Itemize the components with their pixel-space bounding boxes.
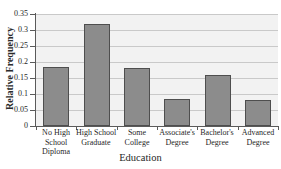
- category-label-line: College: [117, 138, 157, 148]
- gridline: [36, 14, 278, 15]
- category-label-line: Bachelor's: [197, 128, 237, 138]
- bar: [205, 75, 231, 126]
- bar: [43, 67, 69, 126]
- category-label-line: High School: [76, 128, 116, 138]
- bar-chart: Educational Attainment of Americans Rela…: [0, 0, 281, 169]
- gridline: [36, 62, 278, 63]
- bar: [164, 99, 190, 126]
- y-tick-label: 0.1: [0, 90, 30, 98]
- bar: [124, 68, 150, 126]
- y-tick-label: 0: [0, 122, 30, 130]
- gridline: [36, 78, 278, 79]
- y-tick-label: 0.3: [0, 26, 30, 34]
- x-tick-mark: [278, 126, 279, 130]
- y-tick-label: 0.35: [0, 10, 30, 18]
- category-label-line: Associate's: [157, 128, 197, 138]
- gridline: [36, 46, 278, 47]
- category-label-line: Some: [117, 128, 157, 138]
- category-label-line: Graduate: [76, 138, 116, 148]
- bar: [84, 24, 110, 126]
- category-label: Bachelor'sDegree: [197, 128, 237, 147]
- y-axis-line: [35, 13, 36, 127]
- category-label: High SchoolGraduate: [76, 128, 116, 147]
- category-label-line: Degree: [197, 138, 237, 148]
- gridline: [36, 110, 278, 111]
- y-tick-label: 0.25: [0, 42, 30, 50]
- category-label-line: Degree: [238, 138, 278, 148]
- x-axis-title: Education: [0, 152, 281, 163]
- category-label-line: No High: [36, 128, 76, 138]
- category-label: SomeCollege: [117, 128, 157, 147]
- chart-title: Educational Attainment of Americans: [0, 0, 281, 1]
- category-label-line: Degree: [157, 138, 197, 148]
- bar: [245, 100, 271, 126]
- gridline: [36, 30, 278, 31]
- y-tick-label: 0.2: [0, 58, 30, 66]
- category-label: Associate'sDegree: [157, 128, 197, 147]
- category-label-line: School: [36, 138, 76, 148]
- category-label-line: Advanced: [238, 128, 278, 138]
- y-tick-label: 0.15: [0, 74, 30, 82]
- category-label: AdvancedDegree: [238, 128, 278, 147]
- y-tick-label: 0.05: [0, 106, 30, 114]
- y-axis-tick-labels: 00.050.10.150.20.250.30.35: [0, 0, 30, 169]
- gridline: [36, 94, 278, 95]
